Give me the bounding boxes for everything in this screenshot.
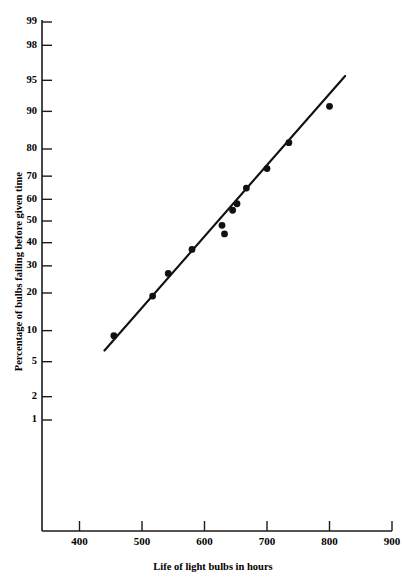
x-tick-group: 400500600700800900 [71, 521, 401, 547]
y-tick-label: 99 [27, 15, 38, 26]
data-point [234, 200, 241, 207]
plot-canvas: 125102030405060708090959899 400500600700… [0, 0, 403, 582]
x-tick-label: 500 [134, 535, 151, 547]
y-tick-label: 70 [27, 170, 38, 181]
y-axis: 125102030405060708090959899 [27, 15, 53, 531]
data-point [264, 165, 271, 172]
y-tick-label: 80 [27, 142, 38, 153]
probability-plot: 125102030405060708090959899 400500600700… [0, 0, 403, 582]
y-tick-label: 50 [27, 214, 38, 225]
data-point [221, 231, 228, 238]
data-point [149, 293, 156, 300]
y-tick-label: 30 [27, 259, 38, 270]
y-tick-label: 5 [32, 355, 37, 366]
data-point [165, 270, 172, 277]
y-tick-label: 60 [27, 193, 38, 204]
x-tick-label: 700 [259, 535, 276, 547]
y-tick-label: 40 [27, 236, 38, 247]
y-tick-group: 125102030405060708090959899 [27, 15, 53, 424]
x-tick-label: 900 [384, 535, 401, 547]
y-axis-title: Percentage of bulbs failing before given… [13, 172, 24, 371]
x-tick-label: 400 [71, 535, 88, 547]
y-tick-label: 2 [32, 390, 37, 401]
x-tick-label: 800 [321, 535, 338, 547]
data-series [105, 76, 346, 351]
fitted-line [105, 76, 346, 351]
y-tick-label: 95 [27, 74, 38, 85]
y-tick-label: 20 [27, 286, 38, 297]
data-points [110, 103, 332, 339]
data-point [219, 222, 226, 229]
y-tick-label: 1 [32, 413, 37, 424]
data-point [285, 139, 292, 146]
data-point [110, 332, 117, 339]
data-point [189, 246, 196, 253]
y-tick-label: 98 [27, 39, 38, 50]
data-point [243, 185, 250, 192]
x-tick-label: 600 [196, 535, 213, 547]
x-axis-title: Life of light bulbs in hours [153, 561, 272, 572]
data-point [229, 207, 236, 214]
y-tick-label: 90 [27, 105, 38, 116]
y-tick-label: 10 [27, 324, 38, 335]
data-point [326, 103, 333, 110]
x-axis: 400500600700800900 [42, 521, 401, 547]
